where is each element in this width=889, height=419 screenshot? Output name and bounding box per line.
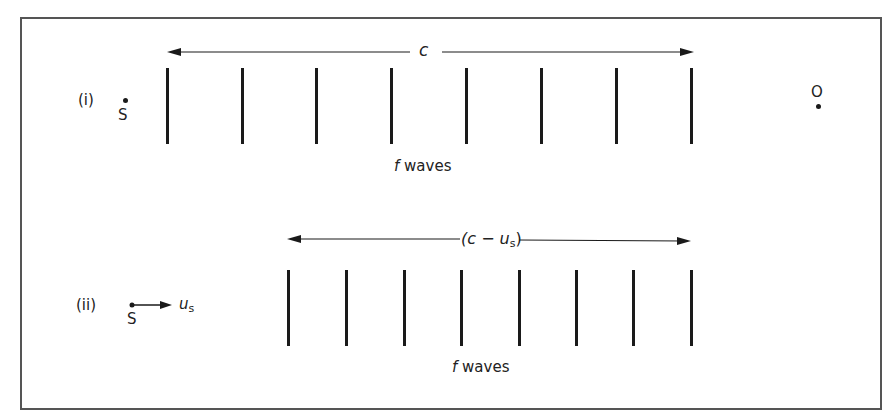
arrows-layer bbox=[0, 0, 889, 419]
span-label-c-minus-us: (c − us) bbox=[461, 229, 522, 250]
wavefront bbox=[690, 270, 693, 346]
wavefront bbox=[540, 68, 543, 144]
wavefront bbox=[287, 270, 290, 346]
frequency-symbol: f bbox=[394, 157, 399, 175]
wavefront bbox=[518, 270, 521, 346]
source-label: S bbox=[127, 310, 137, 328]
waves-label-ii: f waves bbox=[452, 358, 509, 376]
frequency-symbol: f bbox=[452, 358, 457, 376]
observer-dot bbox=[816, 104, 821, 109]
wavefront bbox=[460, 270, 463, 346]
velocity-subscript: s bbox=[189, 302, 195, 315]
wavefront bbox=[241, 68, 244, 144]
wavefront bbox=[390, 68, 393, 144]
waves-text: waves bbox=[462, 358, 509, 376]
wavefront bbox=[345, 270, 348, 346]
source-label: S bbox=[118, 106, 128, 124]
span-label-c: c bbox=[419, 40, 428, 60]
panel-label-i: (i) bbox=[78, 91, 94, 109]
waves-label-i: f waves bbox=[394, 157, 451, 175]
wavefront bbox=[465, 68, 468, 144]
span-arrow-c bbox=[167, 48, 694, 56]
span-label-main: (c − u bbox=[461, 229, 510, 248]
velocity-symbol: u bbox=[179, 295, 189, 313]
wavefront bbox=[315, 68, 318, 144]
velocity-label: us bbox=[179, 295, 194, 315]
span-label-close: ) bbox=[516, 229, 522, 248]
wavefront bbox=[575, 270, 578, 346]
panel-label-ii: (ii) bbox=[76, 296, 96, 314]
wavefront bbox=[690, 68, 693, 144]
wavefront bbox=[615, 68, 618, 144]
velocity-arrow bbox=[130, 301, 173, 309]
wavefront bbox=[632, 270, 635, 346]
observer-label: O bbox=[811, 83, 823, 101]
source-dot bbox=[123, 98, 128, 103]
doppler-diagram: (i) S c f waves O (ii) S us (c − us) bbox=[0, 0, 889, 419]
wavefront bbox=[403, 270, 406, 346]
wavefront bbox=[166, 68, 169, 144]
waves-text: waves bbox=[404, 157, 451, 175]
